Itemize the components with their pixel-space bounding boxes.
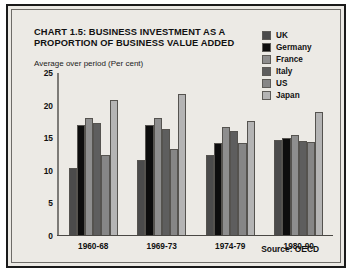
bar-germany-1980-90	[282, 138, 290, 235]
bar-group: 1969-73	[128, 73, 197, 235]
bar-japan-1960-68	[110, 100, 118, 234]
legend-label: France	[276, 55, 303, 64]
chart-figure: CHART 1.5: BUSINESS INVESTMENT AS A PROP…	[6, 4, 346, 268]
bar-us-1980-90	[307, 142, 315, 234]
bar-group-bars	[206, 73, 255, 235]
x-axis-tick-label: 1960-68	[59, 241, 128, 251]
bar-uk-1980-90	[274, 140, 282, 235]
bar-france-1974-79	[222, 127, 230, 234]
bar-germany-1960-68	[77, 125, 85, 235]
bar-italy-1960-68	[93, 123, 101, 235]
chart-title-line-1: CHART 1.5: BUSINESS INVESTMENT AS A	[34, 27, 244, 38]
legend-item-uk: UK	[262, 29, 312, 41]
bar-group: 1980-90	[265, 73, 334, 235]
bar-uk-1974-79	[206, 155, 214, 234]
legend-item-germany: Germany	[262, 41, 312, 53]
bar-uk-1969-73	[137, 160, 145, 234]
chart-inner-frame: CHART 1.5: BUSINESS INVESTMENT AS A PROP…	[11, 9, 341, 263]
bar-france-1960-68	[85, 118, 93, 234]
bar-group: 1974-79	[196, 73, 265, 235]
bar-france-1969-73	[154, 118, 162, 234]
y-axis-tick-label: 10	[44, 166, 53, 176]
y-axis-tick-label: 5	[48, 198, 53, 208]
y-axis-tick-label: 0	[48, 231, 53, 241]
chart-title: CHART 1.5: BUSINESS INVESTMENT AS A PROP…	[34, 27, 244, 49]
y-axis-tick-label: 20	[44, 101, 53, 111]
bar-groups: 1960-681969-731974-791980-90	[59, 73, 333, 235]
legend-item-france: France	[262, 53, 312, 65]
bar-us-1974-79	[238, 143, 246, 235]
bar-group-bars	[274, 73, 323, 235]
bar-group-bars	[137, 73, 186, 235]
bar-japan-1980-90	[315, 112, 323, 234]
x-axis-line	[57, 235, 333, 237]
x-axis-tick-label: 1969-73	[128, 241, 197, 251]
chart-plot-area: 1960-681969-731974-791980-90 2520151050	[57, 73, 333, 236]
chart-title-line-2: PROPORTION OF BUSINESS VALUE ADDED	[34, 38, 244, 49]
bar-group-bars	[69, 73, 118, 235]
legend-label: Germany	[276, 43, 312, 52]
legend-swatch-icon	[262, 43, 271, 52]
bar-italy-1969-73	[162, 129, 170, 234]
bar-italy-1974-79	[230, 131, 238, 235]
x-axis-tick-label: 1974-79	[196, 241, 265, 251]
bar-uk-1960-68	[69, 168, 77, 235]
bar-germany-1974-79	[214, 143, 222, 235]
bar-japan-1974-79	[247, 121, 255, 235]
y-axis-tick-label: 15	[44, 133, 53, 143]
legend-swatch-icon	[262, 31, 271, 40]
source-note: Source: OECD	[261, 244, 319, 254]
bar-us-1969-73	[170, 149, 178, 235]
legend-label: UK	[276, 31, 288, 40]
bar-italy-1980-90	[299, 141, 307, 234]
legend-swatch-icon	[262, 55, 271, 64]
chart-subtitle: Average over period (Per cent)	[34, 59, 143, 68]
y-axis-tick-label: 25	[44, 68, 53, 78]
bar-japan-1969-73	[178, 94, 186, 235]
bar-us-1960-68	[101, 155, 109, 234]
bar-germany-1969-73	[145, 125, 153, 235]
bar-group: 1960-68	[59, 73, 128, 235]
bar-france-1980-90	[291, 135, 299, 234]
